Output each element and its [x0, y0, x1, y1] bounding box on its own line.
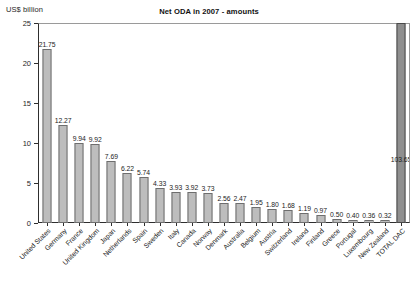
y-tick-label: 5 — [27, 179, 31, 188]
bar-value-label: 5.74 — [137, 169, 150, 176]
x-tick-mark — [353, 223, 354, 226]
bar-value-label: 3.93 — [169, 184, 182, 191]
bar — [59, 125, 68, 223]
bar-value-label: 0.50 — [330, 211, 343, 218]
bar — [171, 192, 180, 223]
bar — [139, 177, 148, 223]
x-tick-mark — [192, 223, 193, 226]
bar — [252, 207, 261, 223]
x-tick-mark — [369, 223, 370, 226]
bar-value-label: 0.97 — [314, 207, 327, 214]
y-tick-label: 25 — [23, 19, 31, 28]
bar-value-label: 1.68 — [282, 202, 295, 209]
bar-value-label: 1.19 — [298, 205, 311, 212]
x-tick-mark — [321, 223, 322, 226]
bar-group: 0.36 — [361, 23, 377, 223]
bars-layer: 21.7512.279.949.927.696.225.744.333.933.… — [39, 23, 409, 223]
bar-group: 9.92 — [87, 23, 103, 223]
x-axis-labels: United StatesGermanyFranceUnited Kingdom… — [39, 227, 409, 292]
y-tick-mark — [34, 223, 38, 224]
bar-group: 4.33 — [152, 23, 168, 223]
bar — [236, 203, 245, 223]
bar-group: 1.68 — [280, 23, 296, 223]
x-tick-mark — [272, 223, 273, 226]
bar-value-label: 2.47 — [234, 195, 247, 202]
bar — [155, 188, 164, 223]
x-tick-mark — [337, 223, 338, 226]
bar — [187, 192, 196, 223]
x-tick-mark — [47, 223, 48, 226]
bar-value-label: 12.27 — [55, 117, 72, 124]
bar-group: 21.75 — [39, 23, 55, 223]
bar-group: 6.22 — [119, 23, 135, 223]
bar-value-label: 9.92 — [89, 136, 102, 143]
chart-container: US$ billion Net ODA in 2007 - amounts 05… — [0, 0, 418, 292]
bar-value-label: 1.95 — [250, 199, 263, 206]
x-tick-mark — [79, 223, 80, 226]
bar-group: 3.93 — [168, 23, 184, 223]
bar-value-label: 0.36 — [362, 212, 375, 219]
bar-value-label: 103.65 — [391, 156, 409, 163]
bar-group: 7.69 — [103, 23, 119, 223]
bar-value-label: 9.94 — [73, 135, 86, 142]
bar — [91, 144, 100, 223]
bar-value-label: 0.40 — [346, 212, 359, 219]
bar — [123, 173, 132, 223]
bar-group: 0.40 — [345, 23, 361, 223]
x-tick-mark — [385, 223, 386, 226]
bar-group: 103.65 — [393, 23, 409, 223]
bar-group: 0.97 — [312, 23, 328, 223]
bar — [268, 209, 277, 223]
x-tick-mark — [401, 223, 402, 226]
bar — [43, 49, 52, 223]
bar-value-label: 4.33 — [153, 180, 166, 187]
x-tick-mark — [144, 223, 145, 226]
bar-value-label: 7.69 — [105, 153, 118, 160]
bar-group: 0.50 — [329, 23, 345, 223]
bar — [107, 161, 116, 223]
bar — [219, 203, 228, 223]
y-tick-label: 0 — [27, 219, 31, 228]
x-tick-mark — [224, 223, 225, 226]
bar-group: 9.94 — [71, 23, 87, 223]
x-tick-mark — [176, 223, 177, 226]
bar — [284, 210, 293, 223]
x-tick-mark — [240, 223, 241, 226]
bar-value-label: 3.92 — [185, 184, 198, 191]
bar-value-label: 1.80 — [266, 201, 279, 208]
y-tick-label: 20 — [23, 59, 31, 68]
bar-group: 1.95 — [248, 23, 264, 223]
bar-group: 1.80 — [264, 23, 280, 223]
bar — [203, 193, 212, 223]
bar-value-label: 21.75 — [39, 41, 55, 48]
bar-group: 3.73 — [200, 23, 216, 223]
bar-value-label: 6.22 — [121, 165, 134, 172]
y-tick-label: 10 — [23, 139, 31, 148]
bar-group: 2.56 — [216, 23, 232, 223]
x-tick-mark — [160, 223, 161, 226]
bar-group: 1.19 — [296, 23, 312, 223]
y-tick-label: 15 — [23, 99, 31, 108]
bar-group: 2.47 — [232, 23, 248, 223]
bar-value-label: 3.73 — [201, 185, 214, 192]
x-tick-mark — [208, 223, 209, 226]
bar-group: 0.32 — [377, 23, 393, 223]
x-tick-mark — [63, 223, 64, 226]
bar-group: 5.74 — [136, 23, 152, 223]
chart-title: Net ODA in 2007 - amounts — [0, 7, 418, 16]
bar — [396, 23, 405, 223]
bar-value-label: 0.32 — [378, 212, 391, 219]
bar-group: 3.92 — [184, 23, 200, 223]
x-tick-mark — [95, 223, 96, 226]
y-axis: 0510152025 — [0, 23, 38, 223]
bar — [316, 215, 325, 223]
bar — [300, 213, 309, 223]
x-tick-mark — [288, 223, 289, 226]
bar-group: 12.27 — [55, 23, 71, 223]
bar — [75, 143, 84, 223]
bar-value-label: 2.56 — [217, 195, 230, 202]
